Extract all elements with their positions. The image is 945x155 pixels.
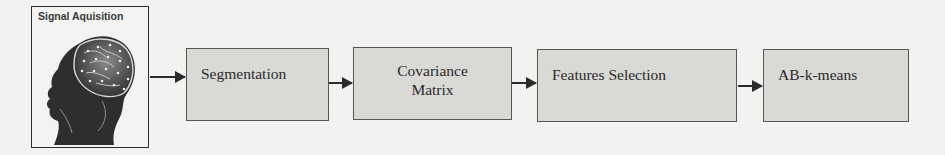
segmentation-step: Segmentation	[186, 48, 329, 121]
ab-k-means-step: AB-k-means	[763, 49, 909, 122]
arrow-covariance-to-features	[512, 82, 536, 84]
covariance-label-line2: Matrix	[411, 81, 453, 98]
head-brain-eeg-icon	[40, 29, 144, 145]
ab-k-means-label: AB-k-means	[778, 65, 857, 84]
arrow-signal-to-segmentation	[150, 76, 185, 78]
features-selection-label: Features Selection	[552, 65, 666, 84]
arrow-features-to-abkmeans	[738, 85, 762, 87]
covariance-label-line1: Covariance	[397, 62, 468, 79]
signal-acquisition-panel: Signal Aquisition	[31, 6, 149, 148]
covariance-matrix-step: Covariance Matrix	[353, 47, 512, 120]
segmentation-label: Segmentation	[201, 64, 286, 83]
arrow-segmentation-to-covariance	[329, 82, 352, 84]
covariance-matrix-label: Covariance Matrix	[397, 61, 468, 99]
signal-acquisition-title: Signal Aquisition	[38, 10, 123, 22]
features-selection-step: Features Selection	[537, 49, 737, 122]
